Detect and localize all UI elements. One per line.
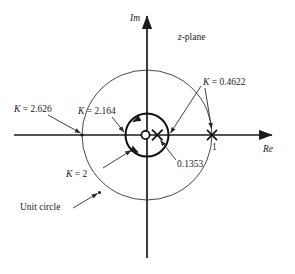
gain-label-k-2-164: K = 2.164 (78, 107, 116, 117)
real-axis-label: Re (263, 145, 273, 155)
breakaway-dot-left (81, 134, 84, 137)
unit-circle-leader-dot (98, 191, 101, 194)
real-axis-tick-label: 1 (212, 143, 217, 153)
unit-circle-label: Unit circle (20, 203, 60, 213)
root-locus-figure: Im Re z-plane K = 2.626 K = 2.164 K = 2 … (0, 0, 295, 274)
gain-label-k-0-4622: K = 0.4622 (203, 78, 246, 88)
zero-value-label: 0.1353 (177, 160, 203, 170)
plot-canvas (0, 0, 295, 274)
leader-k-2-626 (48, 115, 81, 133)
gain-label-k-2: K = 2 (66, 170, 87, 180)
leader-k-0-4622-inner (171, 86, 202, 133)
plane-label: z-plane (178, 33, 205, 43)
gain-label-k-2-626: K = 2.626 (14, 105, 52, 115)
leader-k-2-164 (112, 117, 124, 132)
leader-unit-circle (73, 194, 98, 209)
leader-k-2 (103, 151, 131, 169)
imaginary-axis-label: Im (130, 14, 140, 24)
zero-marker (141, 131, 149, 139)
